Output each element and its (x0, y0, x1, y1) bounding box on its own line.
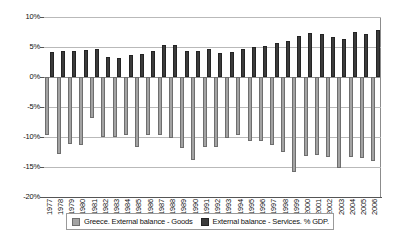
bar-services (173, 45, 177, 77)
bar-group (145, 17, 156, 197)
bar-group (224, 17, 235, 197)
bar-goods (68, 77, 72, 144)
bar-goods (79, 77, 83, 145)
legend-swatch-services-icon (201, 218, 209, 226)
bar-group (359, 17, 370, 197)
x-axis-tick-label: 2006 (371, 199, 379, 215)
bar-services (84, 50, 88, 77)
bar-group (347, 17, 358, 197)
chart-legend: Greece. External balance - Goods Externa… (66, 213, 334, 230)
bar-services (241, 49, 245, 77)
bar-services (218, 53, 222, 77)
bar-group (134, 17, 145, 197)
bar-goods (315, 77, 319, 155)
bars-layer (44, 17, 381, 197)
legend-label-services: External balance - Services. % GDP. (213, 218, 329, 226)
bar-group (168, 17, 179, 197)
bar-group (55, 17, 66, 197)
bar-group (325, 17, 336, 197)
bar-group (66, 17, 77, 197)
bar-goods (191, 77, 195, 160)
bar-goods (124, 77, 128, 135)
bar-services (162, 45, 166, 77)
y-axis-tick-label: -10% (6, 133, 40, 141)
bar-services (61, 51, 65, 77)
x-axis-tick-label: 1978 (57, 199, 65, 215)
bar-goods (371, 77, 375, 161)
x-axis-tick-label: 2003 (338, 199, 346, 215)
bar-goods (259, 77, 263, 141)
bar-services (196, 51, 200, 77)
bar-goods (337, 77, 341, 168)
bar-services (50, 52, 54, 77)
bar-goods (90, 77, 94, 118)
bar-group (246, 17, 257, 197)
bar-group (257, 17, 268, 197)
bar-group (314, 17, 325, 197)
bar-services (320, 34, 324, 77)
bar-group (291, 17, 302, 197)
bar-group (100, 17, 111, 197)
bar-goods (292, 77, 296, 172)
bar-services (185, 51, 189, 77)
y-axis-tick (40, 197, 44, 198)
bar-goods (225, 77, 229, 138)
bar-goods (360, 77, 364, 158)
legend-label-goods: Greece. External balance - Goods (84, 218, 193, 226)
bar-goods (180, 77, 184, 148)
bar-goods (281, 77, 285, 152)
bar-goods (169, 77, 173, 138)
bar-services (129, 55, 133, 77)
bar-services (95, 49, 99, 77)
bar-services (286, 41, 290, 77)
bar-services (364, 34, 368, 77)
bar-group (235, 17, 246, 197)
bar-goods (158, 77, 162, 135)
bar-services (297, 36, 301, 77)
bar-group (269, 17, 280, 197)
legend-item-services: External balance - Services. % GDP. (201, 218, 329, 226)
bar-goods (270, 77, 274, 145)
bar-services (353, 32, 357, 77)
chart-container: 10%5%0%-5%-10%-15%-20% 19771978197919801… (0, 0, 396, 237)
bar-services (275, 43, 279, 77)
bar-group (370, 17, 381, 197)
x-axis-line (44, 197, 382, 198)
bar-group (190, 17, 201, 197)
bar-goods (146, 77, 150, 135)
bar-goods (214, 77, 218, 147)
bar-services (207, 49, 211, 77)
bar-goods (113, 77, 117, 137)
y-axis-tick-label: -5% (6, 103, 40, 111)
bar-group (111, 17, 122, 197)
bar-services (376, 30, 380, 77)
bar-services (106, 57, 110, 77)
legend-item-goods: Greece. External balance - Goods (72, 218, 193, 226)
bar-services (140, 54, 144, 77)
bar-services (331, 37, 335, 77)
bar-group (302, 17, 313, 197)
bar-services (308, 33, 312, 77)
y-axis-tick-label: 5% (6, 43, 40, 51)
bar-group (280, 17, 291, 197)
bar-group (78, 17, 89, 197)
bar-goods (326, 77, 330, 157)
bar-goods (45, 77, 49, 135)
bar-services (230, 52, 234, 77)
x-axis-tick-label: 2004 (349, 199, 357, 215)
bar-services (252, 47, 256, 77)
bar-services (342, 39, 346, 77)
bar-goods (135, 77, 139, 147)
y-axis-tick-label: -20% (6, 193, 40, 201)
legend-swatch-goods-icon (72, 218, 80, 226)
bar-services (263, 46, 267, 77)
bar-group (44, 17, 55, 197)
bar-group (123, 17, 134, 197)
bar-goods (248, 77, 252, 141)
y-axis-tick-label: 0% (6, 73, 40, 81)
bar-group (179, 17, 190, 197)
bar-goods (349, 77, 353, 157)
bar-goods (101, 77, 105, 137)
bar-goods (236, 77, 240, 135)
bar-group (89, 17, 100, 197)
